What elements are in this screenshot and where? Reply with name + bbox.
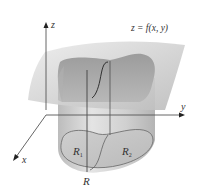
- region-r2-label: R2: [122, 146, 132, 158]
- region-r1-label: R1: [73, 146, 83, 158]
- x-axis-arrowhead: [13, 154, 19, 161]
- region-r2-sub: 2: [129, 152, 132, 158]
- z-axis-arrowhead: [44, 22, 49, 28]
- region-r1-main: R: [73, 145, 80, 157]
- region-r-label: R: [83, 176, 90, 187]
- z-axis-label: z: [51, 20, 55, 30]
- double-integral-region-diagram: z z = f(x, y) y x R1 R2 R: [0, 0, 200, 188]
- x-axis: [16, 115, 46, 157]
- solid-top: [58, 54, 155, 102]
- x-axis-label: x: [22, 155, 26, 165]
- region-r2-main: R: [122, 145, 129, 157]
- y-axis-arrowhead: [179, 113, 185, 118]
- y-axis-label: y: [181, 102, 185, 112]
- diagram-svg: [0, 0, 200, 188]
- surface-label: z = f(x, y): [131, 24, 168, 34]
- region-r1-sub: 1: [80, 152, 83, 158]
